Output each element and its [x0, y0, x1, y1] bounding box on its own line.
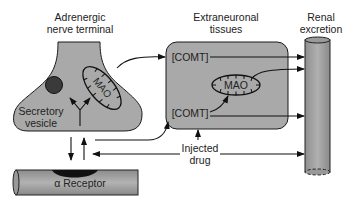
extraneuronal-title-line1: Extraneuronal — [186, 11, 266, 23]
secretory-vesicle-label: Secretory vesicle — [16, 105, 66, 129]
renal-title: Renal excretion — [296, 11, 346, 35]
renal-title-line2: excretion — [296, 23, 346, 35]
secretory-vesicle-icon — [46, 77, 63, 94]
renal-title-line1: Renal — [296, 11, 346, 23]
injected-drug-line2: drug — [180, 154, 220, 166]
injected-drug-line1: Injected — [180, 142, 220, 154]
comt-bottom-label: [COMT] — [170, 107, 210, 119]
injected-drug-label: Injected drug — [180, 142, 220, 166]
nerve-terminal-title-line1: Adrenergic — [44, 11, 116, 23]
extraneuronal-title: Extraneuronal tissues — [186, 11, 266, 35]
renal-excretion-tube — [305, 37, 330, 175]
secretory-vesicle-line2: vesicle — [16, 117, 66, 129]
nerve-terminal-title: Adrenergic nerve terminal — [44, 11, 116, 35]
extraneuronal-title-line2: tissues — [186, 23, 266, 35]
comt-top-label: [COMT] — [170, 51, 210, 63]
alpha-receptor-label: α Receptor — [50, 177, 110, 189]
secretory-vesicle-line1: Secretory — [16, 105, 66, 117]
nerve-terminal-title-line2: nerve terminal — [44, 23, 116, 35]
mao-extraneuronal-label: MAO — [222, 79, 250, 91]
